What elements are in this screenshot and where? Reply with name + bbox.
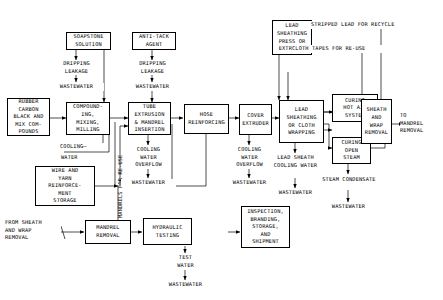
label-wastewater-hydraulic: WASTEWATER <box>158 281 213 289</box>
label-dripping-leakage-antitack: DRIPPING LEAKAGE <box>130 60 175 75</box>
box-compounding-mixing-milling[interactable]: COMPOUND- ING, MIXING, MILLING <box>66 102 110 135</box>
box-hydraulic-testing[interactable]: HYDRAULIC TESTING <box>143 218 192 245</box>
label-cooling: COOLING— <box>60 143 108 151</box>
label-wastewater-antitack: WASTEWATER <box>125 83 180 91</box>
label-lead-sheath-cooling-water: LEAD SHEATH COOLING WATER <box>264 154 327 169</box>
box-hose-reinforcing[interactable]: HOSE REINFORCING <box>184 104 229 134</box>
box-mandrel-removal[interactable]: MANDREL REMOVAL <box>85 220 131 244</box>
box-cover-extruder[interactable]: COVER EXTRUDER <box>239 104 272 135</box>
box-tube-extrusion-mandrel-insertion[interactable]: TUBE EXTRUSION & MANDREL INSERTION <box>128 102 171 135</box>
box-sheath-and-wrap-removal[interactable]: SHEATH AND WRAP REMOVAL <box>361 99 392 144</box>
label-wastewater-soapstone: WASTEWATER <box>49 83 104 91</box>
label-dripping-leakage-soapstone: DRIPPING LEAKAGE <box>54 60 99 75</box>
label-from-sheath-and-wrap-removal: FROM SHEATH AND WRAP REMOVAL <box>5 219 61 242</box>
label-cooling-water-overflow-tube: COOLING WATER OVERFLOW <box>126 146 171 169</box>
box-soapstone-solution[interactable]: SOAPSTONE SOLUTION <box>66 32 111 50</box>
label-mandrels-for-re-use: MANDRELS FOR RE-USE <box>117 113 125 218</box>
flow-diagram-canvas: SOAPSTONE SOLUTION ANTI-TACK AGENT LEAD … <box>0 0 443 300</box>
label-cooling-water: WATER <box>61 154 93 162</box>
label-wastewater-steam: WASTEWATER <box>321 203 376 211</box>
box-lead-sheathing-or-cloth-wrapping[interactable]: LEAD SHEATHING OR CLOTH WRAPPING <box>279 100 324 143</box>
label-wastewater-tube: WASTEWATER <box>121 179 176 187</box>
label-cloth-tapes-for-re-use: CLOTH TAPES FOR RE-USE <box>292 45 410 53</box>
box-wire-and-yarn-reinforcement-storage[interactable]: WIRE AND YARN REINFORCE- MENT STORAGE <box>35 166 95 206</box>
label-wastewater-lead-sheath: WASTEWATER <box>268 189 323 197</box>
box-inspection-branding-storage-shipment[interactable]: INSPECTION, BRANDING, STORAGE, AND SHIPM… <box>241 206 290 248</box>
box-rubber-carbon-black-mix-compounds[interactable]: RUBBER CARBON BLACK AND MIX COM- POUNDS <box>7 98 50 136</box>
box-anti-tack-agent[interactable]: ANTI-TACK AGENT <box>132 32 176 50</box>
label-steam-condensate: STEAM CONDENSATE <box>310 176 388 184</box>
label-to-mandrel-removal: TO MANDREL REMOVAL <box>400 112 443 135</box>
label-test-water: TEST WATER <box>163 254 208 269</box>
label-wastewater-cover: WASTEWATER <box>222 179 277 187</box>
label-stripped-lead-for-recycle: STRIPPED LEAD FOR RECYCLE <box>311 21 437 29</box>
